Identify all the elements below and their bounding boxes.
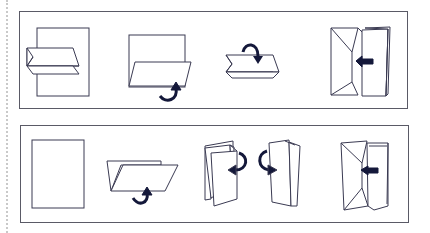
folding-panel-row-1: Tri-fold (letter fold) into envelope — [19, 11, 408, 109]
fold-down-top-arrow-icon — [226, 45, 279, 78]
dotted-margin-rule — [6, 0, 8, 233]
insert-into-envelope-icon — [341, 141, 388, 210]
flat-sheet-icon — [32, 140, 84, 208]
row-2-illustration — [21, 126, 410, 224]
fold-sides-icon — [205, 140, 300, 206]
folding-panel-row-2: Half-fold then quarter fold into envelop… — [20, 125, 409, 223]
fold-up-bottom-icon — [129, 35, 191, 100]
row-1-illustration — [20, 12, 409, 110]
fold-down-top-icon — [27, 48, 79, 74]
insert-into-envelope-icon — [331, 27, 390, 96]
fold-up-half-icon — [107, 161, 178, 203]
